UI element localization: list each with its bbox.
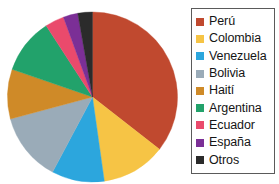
legend-item[interactable]: Venezuela <box>196 48 271 65</box>
legend-item-label: Ecuador <box>209 119 255 132</box>
legend-item[interactable]: Bolivia <box>196 65 271 82</box>
legend-item[interactable]: Ecuador <box>196 117 271 134</box>
legend-color-swatch <box>196 121 204 129</box>
legend-color-swatch <box>196 52 204 60</box>
legend-item[interactable]: Haití <box>196 82 271 99</box>
legend-item[interactable]: España <box>196 134 271 151</box>
pie-svg <box>0 0 190 184</box>
legend-item-label: Otros <box>209 154 239 167</box>
chart-legend: PerúColombiaVenezuelaBoliviaHaitíArgenti… <box>191 8 275 174</box>
legend-item[interactable]: Colombia <box>196 30 271 47</box>
legend-item[interactable]: Otros <box>196 151 271 168</box>
legend-item[interactable]: Argentina <box>196 99 271 116</box>
legend-color-swatch <box>196 35 204 43</box>
legend-color-swatch <box>196 87 204 95</box>
legend-color-swatch <box>196 104 204 112</box>
legend-item-label: Perú <box>209 15 235 28</box>
legend-item-label: Venezuela <box>209 50 267 63</box>
legend-item-list: PerúColombiaVenezuelaBoliviaHaitíArgenti… <box>196 13 271 169</box>
pie-plot-area <box>0 0 190 184</box>
legend-item-label: Argentina <box>209 102 262 115</box>
legend-color-swatch <box>196 70 204 78</box>
pie-slice-group <box>8 12 178 182</box>
legend-color-swatch <box>196 18 204 26</box>
legend-item-label: Haití <box>209 84 234 97</box>
legend-color-swatch <box>196 139 204 147</box>
pie-chart-figure: PerúColombiaVenezuelaBoliviaHaitíArgenti… <box>0 0 279 184</box>
legend-item-label: Colombia <box>209 32 261 45</box>
legend-item-label: España <box>209 136 251 149</box>
legend-item-label: Bolivia <box>209 67 245 80</box>
legend-item[interactable]: Perú <box>196 13 271 30</box>
legend-color-swatch <box>196 156 204 164</box>
